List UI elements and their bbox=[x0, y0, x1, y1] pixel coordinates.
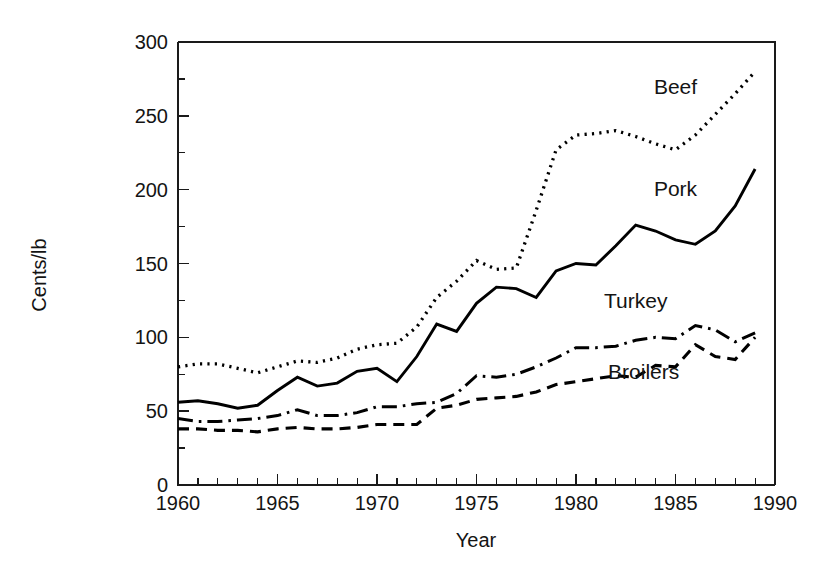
y-tick-label: 300 bbox=[135, 31, 168, 53]
y-axis-title: Cents/lb bbox=[28, 238, 50, 311]
x-tick-label: 1990 bbox=[753, 492, 798, 514]
y-tick-label: 50 bbox=[146, 400, 168, 422]
x-tick-label: 1985 bbox=[653, 492, 698, 514]
x-axis-ticks bbox=[178, 474, 775, 485]
series-line-beef bbox=[178, 72, 755, 373]
series-label-pork: Pork bbox=[654, 177, 698, 200]
series-label-broilers: Broilers bbox=[608, 360, 679, 383]
y-tick-label: 100 bbox=[135, 326, 168, 348]
x-axis-tick-labels: 1960196519701975198019851990 bbox=[156, 492, 798, 514]
x-tick-label: 1965 bbox=[255, 492, 300, 514]
y-tick-label: 0 bbox=[157, 474, 168, 496]
y-tick-label: 200 bbox=[135, 179, 168, 201]
y-tick-label: 150 bbox=[135, 253, 168, 275]
y-axis-tick-labels: 050100150200250300 bbox=[135, 31, 168, 496]
x-tick-label: 1970 bbox=[355, 492, 400, 514]
x-axis-title: Year bbox=[456, 529, 497, 551]
x-tick-label: 1975 bbox=[454, 492, 499, 514]
meat-prices-line-chart: 1960196519701975198019851990 05010015020… bbox=[0, 0, 815, 571]
x-tick-label: 1980 bbox=[554, 492, 599, 514]
chart-page: 1960196519701975198019851990 05010015020… bbox=[0, 0, 815, 571]
series-label-turkey: Turkey bbox=[604, 289, 668, 312]
y-tick-label: 250 bbox=[135, 105, 168, 127]
series-label-beef: Beef bbox=[654, 75, 697, 98]
